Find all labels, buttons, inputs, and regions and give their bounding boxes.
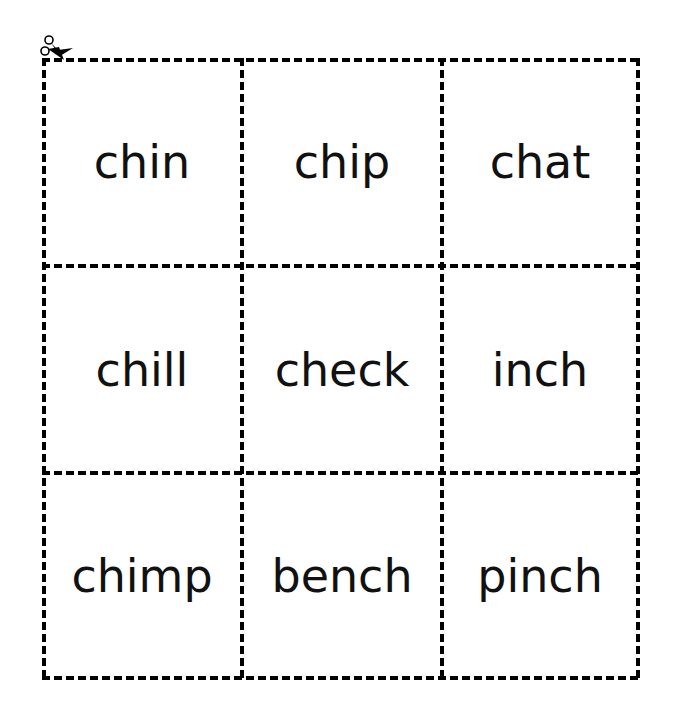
word-card: check [242,266,442,473]
word-card: chill [42,266,242,473]
word-card: inch [442,266,638,473]
card-grid: chin chip chat chill check inch chimp be… [42,58,638,678]
word-card: chip [242,58,442,266]
word-card: chimp [42,473,242,678]
word-card: chat [442,58,638,266]
word-card: pinch [442,473,638,678]
word-card: chin [42,58,242,266]
scissors-icon [40,34,74,62]
word-card: bench [242,473,442,678]
